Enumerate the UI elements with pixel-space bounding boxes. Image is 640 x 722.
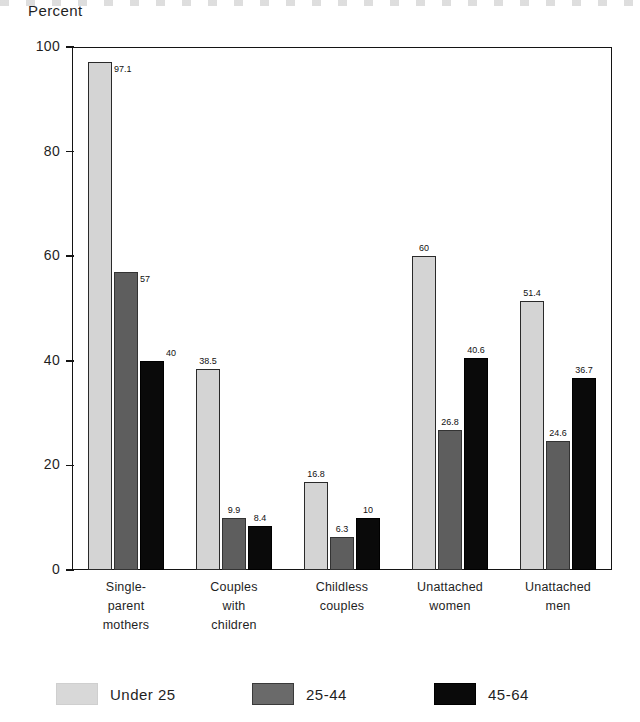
bar-value-label: 60 bbox=[406, 243, 442, 254]
scan-noise-strip bbox=[0, 0, 640, 6]
x-axis-category-line: couples bbox=[288, 597, 396, 616]
x-axis-category-line: women bbox=[396, 597, 504, 616]
legend-swatch-icon bbox=[434, 683, 476, 705]
x-axis-category-line: Unattached bbox=[504, 578, 612, 597]
x-axis-category-label: Unattachedmen bbox=[504, 578, 612, 616]
y-axis-tick-label-80: 80 bbox=[12, 143, 60, 159]
legend-item-dark: 45-64 bbox=[434, 683, 529, 705]
bar-value-label: 40.6 bbox=[458, 344, 494, 355]
legend-swatch-icon bbox=[252, 683, 294, 705]
y-axis-tick-label-20: 20 bbox=[12, 456, 60, 472]
legend-swatch-icon bbox=[56, 683, 98, 705]
bar bbox=[330, 537, 354, 570]
bar bbox=[140, 361, 164, 570]
bar bbox=[546, 441, 570, 570]
legend-item-mid: 25-44 bbox=[252, 683, 347, 705]
legend-label: 45-64 bbox=[488, 686, 529, 703]
bar-value-label: 40 bbox=[166, 348, 176, 359]
bar-value-label: 10 bbox=[350, 504, 386, 515]
y-axis-title: Percent bbox=[28, 2, 83, 19]
bar-value-label: 38.5 bbox=[190, 355, 226, 366]
bar-value-label: 24.6 bbox=[540, 428, 576, 439]
bar-value-label: 6.3 bbox=[324, 524, 360, 535]
x-axis-category-line: mothers bbox=[72, 616, 180, 635]
y-axis-tick-label-40: 40 bbox=[12, 352, 60, 368]
bar-value-label: 57 bbox=[140, 274, 150, 285]
bar bbox=[464, 358, 488, 570]
x-axis-category-line: Couples bbox=[180, 578, 288, 597]
x-axis-category-label: Unattachedwomen bbox=[396, 578, 504, 616]
x-axis-category-label: Childlesscouples bbox=[288, 578, 396, 616]
legend-item-light: Under 25 bbox=[56, 683, 176, 705]
x-axis-category-labels: Single-parentmothersCoupleswithchildrenC… bbox=[72, 578, 612, 658]
bar bbox=[438, 430, 462, 570]
bar bbox=[248, 526, 272, 570]
bar bbox=[196, 369, 220, 570]
bar bbox=[222, 518, 246, 570]
bar-value-label: 51.4 bbox=[514, 288, 550, 299]
bar bbox=[412, 256, 436, 570]
bar-value-label: 8.4 bbox=[242, 513, 278, 524]
x-axis-category-line: Single- bbox=[72, 578, 180, 597]
x-axis-category-line: men bbox=[504, 597, 612, 616]
bar-value-label: 16.8 bbox=[298, 469, 334, 480]
y-axis-tick-label-60: 60 bbox=[12, 247, 60, 263]
x-axis-category-label: Single-parentmothers bbox=[72, 578, 180, 635]
bar-value-label: 36.7 bbox=[566, 365, 602, 376]
y-axis-tick-label-100: 100 bbox=[12, 38, 60, 54]
bar bbox=[572, 378, 596, 570]
bar bbox=[356, 518, 380, 570]
bar-value-label: 97.1 bbox=[114, 64, 132, 75]
legend-label: 25-44 bbox=[306, 686, 347, 703]
x-axis-category-line: Childless bbox=[288, 578, 396, 597]
x-axis-category-line: children bbox=[180, 616, 288, 635]
x-axis-category-label: Coupleswithchildren bbox=[180, 578, 288, 635]
bar bbox=[88, 62, 112, 570]
x-axis-category-line: with bbox=[180, 597, 288, 616]
y-axis-tick-label-0: 0 bbox=[12, 561, 60, 577]
legend-label: Under 25 bbox=[110, 686, 176, 703]
x-axis-category-line: Unattached bbox=[396, 578, 504, 597]
chart-legend: Under 2525-4445-64 bbox=[56, 678, 576, 710]
bar-series-layer: 97.1574038.59.98.416.86.3106026.840.651.… bbox=[72, 47, 612, 570]
x-axis-category-line: parent bbox=[72, 597, 180, 616]
bar bbox=[114, 272, 138, 570]
bar-value-label: 26.8 bbox=[432, 417, 468, 428]
